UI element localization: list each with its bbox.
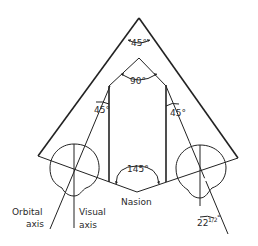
divergence-angle-degree: ° <box>217 214 221 222</box>
left-baseline <box>38 156 137 192</box>
visual-axis-label-line2: axis <box>79 220 97 230</box>
right-baseline <box>137 158 238 192</box>
orbit-axes-diagram: 45° 90° 45° 45° 145° Nasion Orbital axis… <box>0 0 258 246</box>
nasion-angle-label: 145° <box>127 164 149 174</box>
outer-left-edge <box>38 18 139 156</box>
apex-angle-label: 45° <box>131 38 147 48</box>
right-orbit-angle-arc <box>166 103 179 106</box>
right-eye-outline <box>176 145 226 198</box>
orbital-axis-label-line1: Orbital <box>12 207 43 217</box>
left-orbit-angle-label: 45° <box>94 105 110 115</box>
orbital-axis-label-line2: axis <box>26 219 44 229</box>
right-orbit-angle-label: 45° <box>170 108 186 118</box>
outer-right-edge <box>139 18 238 158</box>
visual-axis-label-line1: Visual <box>79 207 106 217</box>
divergence-angle-whole: 22 <box>197 218 208 228</box>
inner-apex-angle-label: 90° <box>130 76 146 86</box>
nasion-label: Nasion <box>121 197 152 207</box>
